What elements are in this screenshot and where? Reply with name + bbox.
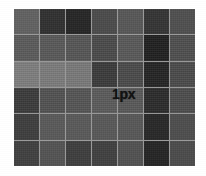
grid-cell: [66, 9, 91, 34]
scale-annotation-label: 1px: [112, 86, 135, 102]
grid-cell: [118, 9, 143, 34]
grid-cell: [118, 35, 143, 60]
grid-cell: [144, 9, 169, 34]
grid-cell: [118, 141, 143, 166]
grid-cell: [14, 9, 39, 34]
grid-cell: [144, 35, 169, 60]
grid-cell: [14, 141, 39, 166]
grid-cell: [40, 35, 65, 60]
grid-cell: [144, 141, 169, 166]
grid-cell: [66, 114, 91, 139]
grid-cell: [92, 114, 117, 139]
grid-cell: [66, 62, 91, 87]
grid-cell: [40, 62, 65, 87]
grid-cell: [92, 62, 117, 87]
grid-cell: [66, 88, 91, 113]
grid-cell: [170, 62, 195, 87]
grayscale-swatch-figure: 1px: [0, 0, 206, 176]
grid-cell: [144, 62, 169, 87]
grid-cell: [14, 114, 39, 139]
grid-cell: [144, 114, 169, 139]
grid-cell: [66, 141, 91, 166]
grid-cell: [170, 114, 195, 139]
grid-cell: [170, 9, 195, 34]
grid-cell: [40, 88, 65, 113]
grid-cell: [40, 9, 65, 34]
grid-cell: [92, 9, 117, 34]
grid-cell: [92, 141, 117, 166]
grid-cell: [170, 141, 195, 166]
grid-cell: [144, 88, 169, 113]
grid-cell: [14, 62, 39, 87]
grid-cell: [14, 35, 39, 60]
grid-cell: [170, 88, 195, 113]
grid-cell: [40, 141, 65, 166]
grid-cell: [66, 35, 91, 60]
grid-cell: [118, 114, 143, 139]
grid-cell: [170, 35, 195, 60]
grid-cell: [118, 62, 143, 87]
grid-cell: [14, 88, 39, 113]
grayscale-grid: [14, 9, 195, 166]
grid-cell: [92, 35, 117, 60]
grid-cell: [40, 114, 65, 139]
